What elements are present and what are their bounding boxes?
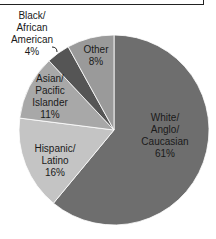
label-white: White/ Anglo/ Caucasian 61% xyxy=(130,112,200,160)
label-hispanic: Hispanic/ Latino 16% xyxy=(25,143,85,179)
label-black: Black/ African American 4% xyxy=(4,10,60,58)
label-asian: Asian/ Pacific Islander 11% xyxy=(25,73,75,121)
label-other: Other 8% xyxy=(78,44,114,68)
